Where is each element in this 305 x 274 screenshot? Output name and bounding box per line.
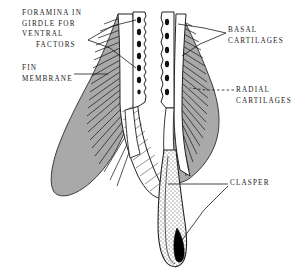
label-basal-line2: CARTILAGES bbox=[228, 37, 284, 45]
label-radial-line1: RADIAL bbox=[236, 86, 270, 94]
label-foramina-line3: VENTRAL bbox=[22, 30, 64, 38]
label-foramina-line4: FACTORS bbox=[22, 40, 76, 51]
leader-clasper-b bbox=[182, 186, 228, 240]
label-foramina-line1: FORAMINA IN bbox=[22, 9, 82, 17]
figure-canvas: FORAMINA INGIRDLE FORVENTRALFACTORS FINM… bbox=[0, 0, 305, 274]
label-foramina-line2: GIRDLE FOR bbox=[22, 20, 76, 28]
label-basal-line1: BASAL bbox=[228, 26, 257, 34]
label-clasper-line1: CLASPER bbox=[230, 179, 270, 187]
label-fin-membrane-line2: MEMBRANE bbox=[22, 75, 73, 83]
label-radial-line2: CARTILAGES bbox=[236, 97, 292, 105]
label-radial-cartilages: RADIALCARTILAGES bbox=[236, 85, 292, 106]
girdle-shaft-right bbox=[164, 108, 174, 154]
label-fin-membrane-line1: FIN bbox=[22, 64, 37, 72]
label-clasper: CLASPER bbox=[230, 178, 270, 189]
label-basal-cartilages: BASALCARTILAGES bbox=[228, 25, 284, 46]
label-foramina: FORAMINA INGIRDLE FORVENTRALFACTORS bbox=[22, 8, 82, 50]
label-fin-membrane: FINMEMBRANE bbox=[22, 63, 73, 84]
right-fin-group bbox=[158, 12, 219, 267]
